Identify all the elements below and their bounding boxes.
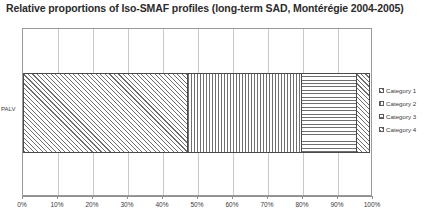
legend-label-category-3: Category 3: [386, 113, 416, 120]
y-tick-label-palv: PALV: [1, 106, 15, 112]
bar-segment-category-2[interactable]: [187, 73, 303, 153]
x-tick-label-80: 80%: [295, 201, 308, 208]
x-tick-80: [302, 196, 303, 199]
legend-item-category-1[interactable]: Category 1: [379, 84, 432, 97]
x-axis-tick-labels: 0%10%20%30%40%50%60%70%80%90%100%: [22, 201, 372, 213]
legend-swatch-icon-category-3: [379, 114, 384, 119]
bar-segment-category-4[interactable]: [356, 73, 370, 153]
legend-swatch-icon-category-2: [379, 101, 384, 106]
bar-segment-category-1[interactable]: [23, 73, 188, 153]
x-tick-10: [57, 196, 58, 199]
chart-container: Relative proportions of Iso-SMAF profile…: [0, 0, 432, 224]
x-tick-60: [232, 196, 233, 199]
stacked-bar-palv: [23, 73, 371, 153]
x-axis-ticks: [22, 196, 372, 200]
legend-swatch-icon-category-1: [379, 88, 384, 93]
chart-legend: Category 1Category 2Category 3Category 4: [379, 84, 432, 136]
x-tick-label-40: 40%: [155, 201, 168, 208]
x-tick-label-20: 20%: [85, 201, 98, 208]
x-tick-label-30: 30%: [120, 201, 133, 208]
x-tick-label-0: 0%: [17, 201, 26, 208]
legend-swatch-icon-category-4: [379, 127, 384, 132]
x-tick-40: [162, 196, 163, 199]
x-tick-label-90: 90%: [330, 201, 343, 208]
x-tick-100: [372, 196, 373, 199]
legend-label-category-1: Category 1: [386, 87, 416, 94]
x-tick-label-50: 50%: [190, 201, 203, 208]
x-tick-90: [337, 196, 338, 199]
x-tick-70: [267, 196, 268, 199]
legend-label-category-4: Category 4: [386, 126, 416, 133]
y-axis: PALV: [0, 28, 22, 196]
x-tick-label-10: 10%: [50, 201, 63, 208]
legend-item-category-2[interactable]: Category 2: [379, 97, 432, 110]
x-tick-label-100: 100%: [364, 201, 381, 208]
x-tick-30: [127, 196, 128, 199]
x-tick-20: [92, 196, 93, 199]
legend-label-category-2: Category 2: [386, 100, 416, 107]
x-tick-label-60: 60%: [225, 201, 238, 208]
x-tick-0: [22, 196, 23, 199]
chart-title: Relative proportions of Iso-SMAF profile…: [6, 2, 430, 14]
legend-item-category-4[interactable]: Category 4: [379, 123, 432, 136]
x-tick-label-70: 70%: [260, 201, 273, 208]
legend-item-category-3[interactable]: Category 3: [379, 110, 432, 123]
plot-area: [22, 28, 372, 196]
bar-segment-category-3[interactable]: [301, 73, 357, 153]
x-tick-50: [197, 196, 198, 199]
